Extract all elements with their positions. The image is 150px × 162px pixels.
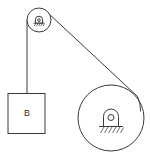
diagonal-cord [47, 12, 137, 96]
top-pin-support-hole [38, 19, 41, 22]
block-label: B [24, 108, 30, 118]
large-wheel [78, 85, 144, 151]
pulley-block-diagram: B [0, 0, 150, 162]
pin-support-hole [108, 115, 114, 121]
top-pulley [27, 8, 51, 32]
hanging-block: B [8, 94, 45, 134]
diagram-canvas: B [0, 0, 150, 162]
